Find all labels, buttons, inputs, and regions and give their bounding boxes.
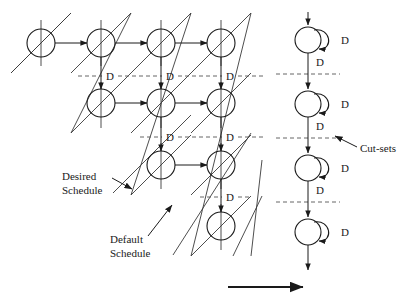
desired-schedule-annotation: Desired Schedule [62, 170, 132, 196]
chain-node [295, 219, 321, 245]
default-schedule-pointer [148, 205, 172, 236]
graph-node [207, 89, 235, 117]
default-schedule-annotation: Default Schedule [110, 205, 172, 259]
delay-label: D [166, 131, 174, 143]
chain-node [295, 155, 321, 181]
graph-node [147, 151, 175, 179]
graph-node [87, 89, 115, 117]
cut-sets-annotation: Cut-sets [335, 136, 396, 154]
delay-label: D [316, 120, 324, 132]
right-chain-edge-delay-labels: D D D [316, 56, 324, 196]
delay-label: D [226, 70, 234, 82]
delay-label: D [226, 191, 234, 203]
desired-schedule-pointer [112, 178, 132, 189]
delay-label: D [316, 56, 324, 68]
delay-label: D [106, 70, 114, 82]
delay-label: D [341, 162, 349, 174]
cut-sets-pointer [335, 136, 357, 147]
graph-node [207, 29, 235, 57]
cut-sets-label: Cut-sets [360, 142, 396, 154]
delay-label: D [166, 70, 174, 82]
delay-label: D [316, 184, 324, 196]
figure-canvas: D D D D D D [0, 0, 410, 302]
graph-node [27, 29, 55, 57]
delay-label: D [341, 98, 349, 110]
desired-schedule-label-line2: Schedule [62, 184, 102, 196]
default-schedule-label-line2: Schedule [110, 247, 150, 259]
desired-schedule-label-line1: Desired [62, 170, 97, 182]
left-cut-line-row1: D D D [78, 70, 266, 82]
left-cut-line-row2: D D [140, 131, 266, 143]
chain-node [295, 27, 321, 53]
delay-label: D [341, 226, 349, 238]
graph-node [147, 89, 175, 117]
default-schedule-label-line1: Default [110, 233, 143, 245]
graph-node [87, 29, 115, 57]
node-vertical-lines [41, 20, 221, 250]
chain-node [295, 91, 321, 117]
delay-label: D [341, 34, 349, 46]
delay-label: D [226, 131, 234, 143]
schedule-diagram: D D D D D D [0, 0, 410, 302]
graph-node [207, 151, 235, 179]
graph-node [207, 212, 235, 240]
graph-node [147, 29, 175, 57]
right-chain-loop-delay-labels: D D D D [341, 34, 349, 238]
